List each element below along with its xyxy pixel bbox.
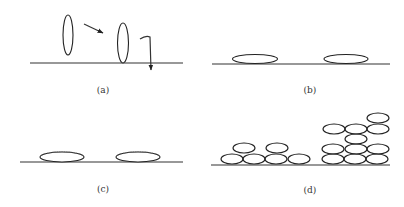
particle	[344, 154, 366, 164]
particle	[367, 113, 389, 123]
particle-flat	[233, 55, 278, 64]
particle	[221, 154, 243, 164]
particle	[367, 144, 389, 154]
particle	[345, 144, 367, 154]
stack-right	[322, 113, 389, 164]
approach-arrow-icon	[84, 24, 103, 33]
particle-upright	[118, 23, 129, 63]
particle	[367, 124, 389, 134]
particle-coated	[116, 152, 160, 162]
particle-flat	[324, 55, 368, 64]
panel-label-c: (c)	[97, 184, 109, 194]
particle	[366, 154, 388, 164]
particle	[233, 143, 255, 153]
panel-label-d: (d)	[304, 185, 317, 195]
particle	[265, 154, 287, 164]
panel-a: (a)	[30, 15, 183, 95]
panel-b: (b)	[212, 55, 390, 96]
particle	[345, 124, 367, 134]
particle	[322, 154, 344, 164]
particle	[243, 154, 265, 164]
particle	[266, 143, 288, 153]
particle	[322, 144, 344, 154]
figure-canvas: (a) (b) (c)	[0, 0, 404, 207]
panel-label-b: (b)	[304, 85, 317, 95]
panel-c: (c)	[20, 152, 183, 194]
panel-d: (d)	[211, 113, 390, 195]
panel-label-a: (a)	[97, 85, 109, 95]
particle-coated	[40, 152, 84, 162]
particle	[345, 134, 367, 144]
particle	[323, 124, 345, 134]
particle-falling	[63, 15, 73, 55]
rotate-arrow-icon	[140, 36, 151, 70]
particle	[288, 154, 310, 164]
stack-left	[221, 143, 310, 164]
